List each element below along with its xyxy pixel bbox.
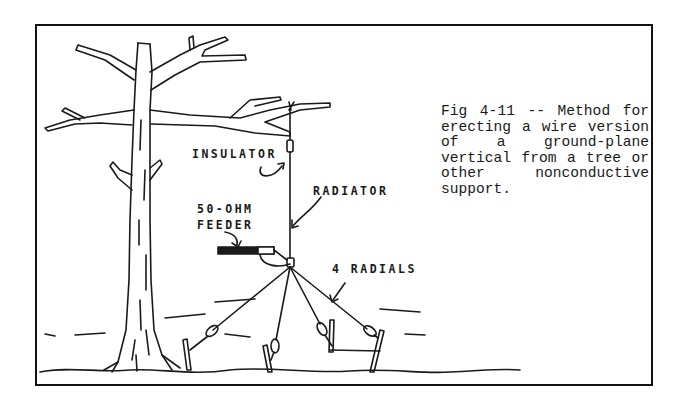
antenna-illustration: INSULATOR RADIATOR 50-OHM FEEDER 4 RADIA…	[0, 0, 688, 407]
label-feeder-line1: 50-OHM	[197, 202, 254, 216]
figure-caption: Fig 4-11 -- Method for erecting a wire v…	[441, 104, 649, 197]
feeder-cable-icon	[218, 247, 290, 266]
tree-icon	[45, 36, 330, 372]
insulator-icon	[287, 140, 293, 152]
radiator-wire	[287, 102, 294, 267]
label-radiator: RADIATOR	[313, 184, 388, 198]
label-radials: 4 RADIALS	[332, 262, 417, 276]
ground-line	[40, 299, 520, 372]
label-feeder-line2: FEEDER	[197, 218, 254, 232]
ground-stake	[183, 339, 191, 370]
radials	[183, 267, 384, 372]
ground-stake	[329, 320, 334, 352]
label-insulator: INSULATOR	[192, 147, 277, 161]
